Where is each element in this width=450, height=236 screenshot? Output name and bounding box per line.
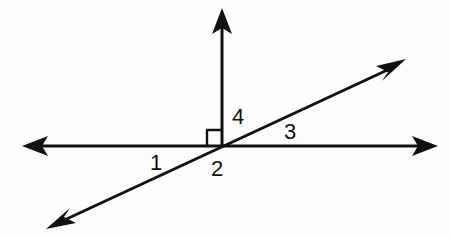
diagonal-lower-left-arrowhead xyxy=(46,208,76,229)
right-angle-marker xyxy=(207,130,221,145)
geometry-svg xyxy=(0,0,450,236)
angle-diagram-figure: 1 2 3 4 xyxy=(0,0,450,236)
angle-label-2: 2 xyxy=(211,158,223,180)
angle-label-4: 4 xyxy=(232,106,244,128)
diagonal-upper-right-arrowhead xyxy=(376,59,406,81)
angle-label-1: 1 xyxy=(150,152,162,174)
angle-label-3: 3 xyxy=(284,121,296,143)
